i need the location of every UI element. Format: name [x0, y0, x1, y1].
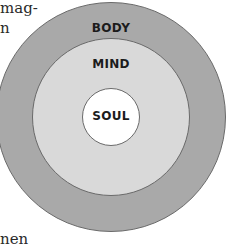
label-mind: MIND: [92, 58, 130, 70]
body-text-fragment-top: mag-: [0, 1, 38, 16]
label-soul: SOUL: [92, 110, 129, 122]
label-body: BODY: [92, 22, 130, 34]
body-text-fragment-bottom: nen: [0, 232, 28, 247]
body-text-fragment-top-2: n: [0, 21, 10, 36]
